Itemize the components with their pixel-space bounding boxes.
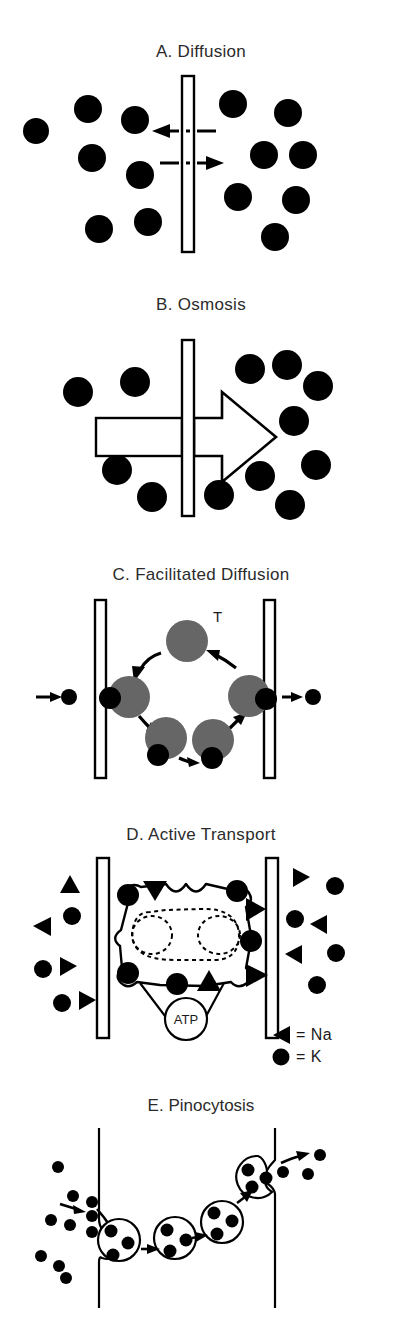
vesicle-cargo xyxy=(208,1207,221,1220)
active-transport-drawing: ATP xyxy=(0,790,402,1080)
pinocytosis-drawing xyxy=(0,1080,402,1327)
membrane-transport-figure: A. Diffusion xyxy=(0,0,402,1327)
particle xyxy=(282,186,310,214)
leftward-arrowhead xyxy=(152,124,170,138)
panel-facilitated-diffusion: C. Facilitated Diffusion xyxy=(0,535,402,790)
legend-label-k: = K xyxy=(296,1048,322,1066)
particle xyxy=(134,208,162,236)
circle-icon xyxy=(268,1048,294,1066)
particle xyxy=(289,141,317,169)
particle xyxy=(250,141,278,169)
particle xyxy=(303,371,333,401)
cycle-arrowhead-bottom xyxy=(187,757,200,767)
left-membrane-line xyxy=(99,1128,119,1308)
pinocytosis-outside-particles-left xyxy=(35,1161,98,1284)
osmosis-arrow-tail xyxy=(96,418,182,456)
carrier-cargo xyxy=(255,688,277,710)
carrier-cargo xyxy=(99,687,121,709)
particle xyxy=(67,1190,79,1202)
k-circle xyxy=(286,910,304,928)
panel-c-stage: T xyxy=(0,535,402,790)
particle xyxy=(85,215,113,243)
panel-osmosis: B. Osmosis xyxy=(0,270,402,535)
k-circle xyxy=(53,994,71,1012)
legend-label-na: = Na xyxy=(296,1026,332,1044)
legend-row-na: = Na xyxy=(268,1024,332,1046)
osmosis-drawing xyxy=(0,270,402,535)
carrier-cargo xyxy=(201,747,223,769)
na-triangle xyxy=(310,915,327,934)
rightward-arrowhead xyxy=(206,156,224,170)
cycle-arrow-left-bottom xyxy=(139,716,150,728)
particle xyxy=(78,144,106,172)
atp-label: ATP xyxy=(174,1012,198,1027)
panel-active-transport: D. Active Transport xyxy=(0,790,402,1080)
particle xyxy=(23,118,49,144)
panel-pinocytosis: E. Pinocytosis xyxy=(0,1080,402,1327)
k-circle xyxy=(63,907,81,925)
vesicle-mid-right xyxy=(201,1201,243,1243)
particle xyxy=(53,1260,65,1272)
na-triangle xyxy=(33,917,51,936)
active-transport-left-particles xyxy=(33,875,96,1012)
transit-arrow-3 xyxy=(237,1197,245,1203)
particle xyxy=(64,1219,76,1231)
na-triangle xyxy=(60,875,80,893)
vesicle-cargo xyxy=(260,1172,273,1185)
vesicle-cargo xyxy=(122,1237,135,1250)
facilitated-diffusion-drawing: T xyxy=(0,535,402,790)
panel-e-stage xyxy=(0,1080,402,1327)
right-membrane-line xyxy=(264,1128,275,1308)
vesicle-cargo xyxy=(211,1228,224,1241)
k-marker-top-right xyxy=(226,880,248,902)
particle xyxy=(219,90,247,118)
carrier-body xyxy=(166,620,208,662)
diffusion-left-particles xyxy=(23,95,162,243)
diffusion-drawing xyxy=(0,0,402,270)
active-transport-legend: = Na = K xyxy=(268,1024,332,1068)
vesicle-cargo xyxy=(161,1224,174,1237)
intake-arrowhead xyxy=(73,1205,86,1214)
particle xyxy=(126,161,154,189)
particle xyxy=(86,1226,98,1238)
particle xyxy=(102,455,132,485)
k-marker-right xyxy=(240,930,262,952)
particle xyxy=(261,223,289,251)
particle xyxy=(302,1168,314,1180)
particle xyxy=(45,1214,57,1226)
carrier-label-t: T xyxy=(213,608,222,625)
diffusion-right-particles xyxy=(219,90,317,251)
k-marker-top-left xyxy=(117,884,139,906)
particle xyxy=(86,1196,98,1208)
particle xyxy=(275,490,305,520)
left-membrane-bar xyxy=(97,858,109,1038)
particle xyxy=(235,354,265,384)
na-exit-marker-upper xyxy=(246,898,266,921)
particle xyxy=(63,377,93,407)
k-circle xyxy=(34,960,52,978)
vesicle-cargo xyxy=(242,1164,255,1177)
carrier-top xyxy=(166,620,208,662)
k-circle xyxy=(308,976,326,994)
particle xyxy=(301,450,331,480)
active-transport-right-particles xyxy=(285,868,345,994)
panel-d-stage: ATP xyxy=(0,790,402,1080)
vesicle-cargo xyxy=(105,1225,118,1238)
right-membrane-bar xyxy=(266,858,278,1038)
na-triangle xyxy=(285,945,302,964)
particle xyxy=(272,350,302,380)
exit-particle xyxy=(305,689,321,705)
exit-arrowhead xyxy=(291,692,303,702)
particle xyxy=(120,367,150,397)
k-marker-left-lower xyxy=(117,962,139,984)
particle xyxy=(35,1250,47,1262)
vesicle-cargo xyxy=(226,1215,239,1228)
particle xyxy=(279,406,309,436)
carrier-bottom-right xyxy=(192,719,234,769)
panel-diffusion: A. Diffusion xyxy=(0,0,402,270)
particle xyxy=(277,1166,289,1178)
particle xyxy=(245,461,275,491)
vesicle-mid-left xyxy=(154,1217,196,1259)
particle xyxy=(86,1210,98,1222)
entry-arrowhead xyxy=(50,692,62,702)
